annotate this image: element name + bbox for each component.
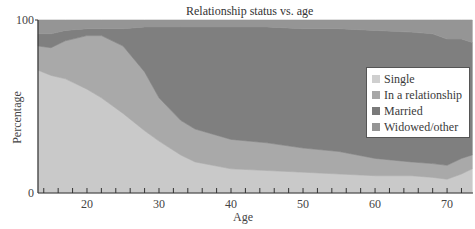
legend-label: Widowed/other xyxy=(384,120,458,135)
x-tick-label: 20 xyxy=(81,197,93,211)
legend-swatch-married xyxy=(372,107,380,115)
legend-item-married: Married xyxy=(372,103,465,119)
legend-item-widowed-other: Widowed/other xyxy=(372,119,465,135)
x-tick-label: 30 xyxy=(153,197,165,211)
y-tick-label-100: 100 xyxy=(16,13,34,27)
chart: Relationship status vs. age 203040506070… xyxy=(0,0,475,229)
y-tick-label-0: 0 xyxy=(28,186,34,200)
legend-item-single: Single xyxy=(372,71,465,87)
y-axis-label: Percentage xyxy=(10,83,25,153)
legend: Single In a relationship Married Widowed… xyxy=(366,67,470,138)
x-tick-label: 40 xyxy=(225,197,237,211)
x-tick-label: 60 xyxy=(369,197,381,211)
legend-label: Married xyxy=(384,104,423,119)
legend-label: Single xyxy=(384,72,415,87)
legend-item-in-a-relationship: In a relationship xyxy=(372,87,465,103)
x-tick-label: 70 xyxy=(441,197,453,211)
legend-label: In a relationship xyxy=(384,88,462,103)
x-axis-label: Age xyxy=(233,210,253,225)
x-tick-label: 50 xyxy=(297,197,309,211)
legend-swatch-widowed xyxy=(372,123,380,131)
legend-swatch-single xyxy=(372,75,380,83)
legend-swatch-relationship xyxy=(372,91,380,99)
